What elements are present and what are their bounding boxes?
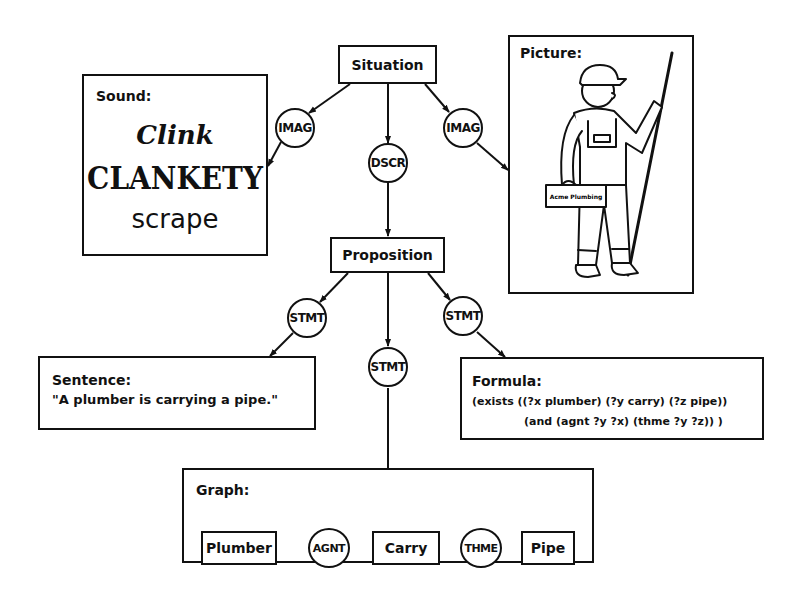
formula-line1: (exists ((?x plumber) (?y carry) (?z pip… <box>472 395 727 408</box>
imag-right-relation: IMAG <box>443 108 483 148</box>
plumber-illustration-icon: Acme Plumbing <box>508 35 694 294</box>
sound-box: Sound: Clink CLANKETY scrape <box>82 74 268 256</box>
proposition-label: Proposition <box>342 247 433 263</box>
graph-relation-thme: THME <box>460 528 502 568</box>
thme-label: THME <box>464 542 497 555</box>
sentence-box: Sentence: "A plumber is carrying a pipe.… <box>38 356 316 430</box>
graph-concept-plumber: Plumber <box>201 531 277 565</box>
sentence-text: "A plumber is carrying a pipe." <box>52 392 278 407</box>
svg-text:Acme Plumbing: Acme Plumbing <box>550 193 603 201</box>
sound-word-scrape: scrape <box>84 204 266 234</box>
agnt-label: AGNT <box>313 542 345 555</box>
formula-box: Formula: (exists ((?x plumber) (?y carry… <box>460 357 764 440</box>
sound-word-clink: Clink <box>84 120 266 150</box>
stmt-center-relation: STMT <box>368 347 408 387</box>
sentence-title: Sentence: <box>52 372 131 388</box>
carry-label: Carry <box>385 540 428 556</box>
plumber-label: Plumber <box>206 540 272 556</box>
stmt-right-label: STMT <box>446 309 481 323</box>
imag-left-relation: IMAG <box>275 108 315 148</box>
picture-box: Picture: Acme P <box>508 35 694 294</box>
graph-concept-carry: Carry <box>372 531 440 565</box>
formula-line2: (and (agnt ?y ?x) (thme ?y ?z)) ) <box>524 415 723 428</box>
pipe-label: Pipe <box>531 540 566 556</box>
stmt-left-label: STMT <box>290 311 325 325</box>
stmt-right-relation: STMT <box>443 296 483 336</box>
stmt-center-label: STMT <box>371 360 406 374</box>
dscr-label: DSCR <box>371 156 406 170</box>
sound-word-clankety: CLANKETY <box>84 160 266 198</box>
graph-concept-pipe: Pipe <box>521 531 575 565</box>
formula-title: Formula: <box>472 373 542 389</box>
situation-label: Situation <box>351 57 423 73</box>
dscr-relation: DSCR <box>368 143 408 183</box>
stmt-left-relation: STMT <box>287 298 327 338</box>
graph-title: Graph: <box>196 482 249 498</box>
situation-node: Situation <box>338 45 437 84</box>
imag-right-label: IMAG <box>446 121 480 135</box>
imag-left-label: IMAG <box>278 121 312 135</box>
sound-title: Sound: <box>96 88 151 104</box>
proposition-node: Proposition <box>330 237 445 273</box>
graph-relation-agnt: AGNT <box>308 528 350 568</box>
